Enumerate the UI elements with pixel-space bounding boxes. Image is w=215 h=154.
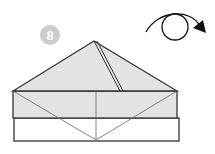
triangle-flap [13,41,177,91]
white-strip [14,118,179,141]
step-number: 8 [46,28,53,43]
turn-over-icon [146,14,206,40]
colored-band [13,91,177,118]
origami-diagram: 8 [0,0,215,154]
step-badge: 8 [40,25,60,45]
